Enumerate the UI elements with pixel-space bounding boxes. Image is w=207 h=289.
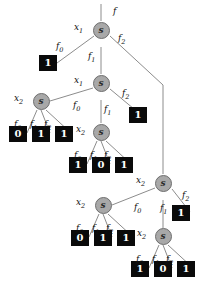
label-l-f2-d: f2 — [104, 150, 111, 163]
terminal-node-t8[interactable]: 1 — [115, 157, 133, 173]
terminal-node-t15[interactable]: 1 — [177, 261, 195, 277]
label-l-f1-g: f1 — [152, 254, 159, 267]
label-l-x2-d: x2 — [76, 197, 85, 210]
terminal-node-t9[interactable]: 1 — [172, 205, 190, 221]
decision-diagram-canvas: sssssss 110111011011101 fx1f0f1f2x1f0f1f… — [0, 0, 207, 289]
terminal-node-t2[interactable]: 1 — [129, 107, 147, 123]
label-l-x1-b: x1 — [74, 75, 83, 88]
label-l-f2-e: f2 — [182, 190, 189, 203]
label-l-f2-g: f2 — [166, 254, 173, 267]
terminal-node-t12[interactable]: 1 — [117, 230, 135, 246]
label-l-x1-a: x1 — [74, 22, 83, 35]
label-l-x2-a: x2 — [14, 93, 23, 106]
decision-node-n1[interactable]: s — [93, 22, 110, 39]
label-l-f1-d: f1 — [90, 150, 97, 163]
decision-node-n2[interactable]: s — [93, 75, 110, 92]
label-l-f2-c: f2 — [44, 119, 51, 132]
decision-node-n6[interactable]: s — [95, 197, 112, 214]
label-l-f0-f: f0 — [76, 223, 83, 236]
label-l-f: f — [113, 6, 116, 16]
terminal-node-t5[interactable]: 1 — [55, 126, 73, 142]
label-l-f0-e: f0 — [134, 202, 141, 215]
decision-node-n7[interactable]: s — [155, 228, 172, 245]
label-l-f0-d: f0 — [74, 150, 81, 163]
label-l-f1-a: f1 — [88, 51, 95, 64]
label-l-x2-e: x2 — [137, 228, 146, 241]
label-l-f0-c: f0 — [14, 119, 21, 132]
label-l-x2-b: x2 — [76, 124, 85, 137]
label-l-f2-a: f2 — [118, 33, 125, 46]
decision-node-n3[interactable]: s — [33, 93, 50, 110]
label-l-x2-c: x2 — [136, 175, 145, 188]
label-l-f1-c: f1 — [30, 119, 37, 132]
terminal-node-t1[interactable]: 1 — [39, 55, 57, 71]
edge-e-n2-f0 — [50, 88, 93, 101]
decision-node-n5[interactable]: s — [155, 175, 172, 192]
label-l-f0-b: f0 — [73, 100, 80, 113]
label-l-f0-a: f0 — [56, 41, 63, 54]
label-l-f0-g: f0 — [136, 254, 143, 267]
decision-node-n4[interactable]: s — [93, 124, 110, 141]
label-l-f1-f: f1 — [92, 223, 99, 236]
label-l-f1-b: f1 — [104, 104, 111, 117]
label-l-f1-e: f1 — [160, 203, 167, 216]
label-l-f2-f: f2 — [106, 223, 113, 236]
label-l-f2-b: f2 — [122, 88, 129, 101]
